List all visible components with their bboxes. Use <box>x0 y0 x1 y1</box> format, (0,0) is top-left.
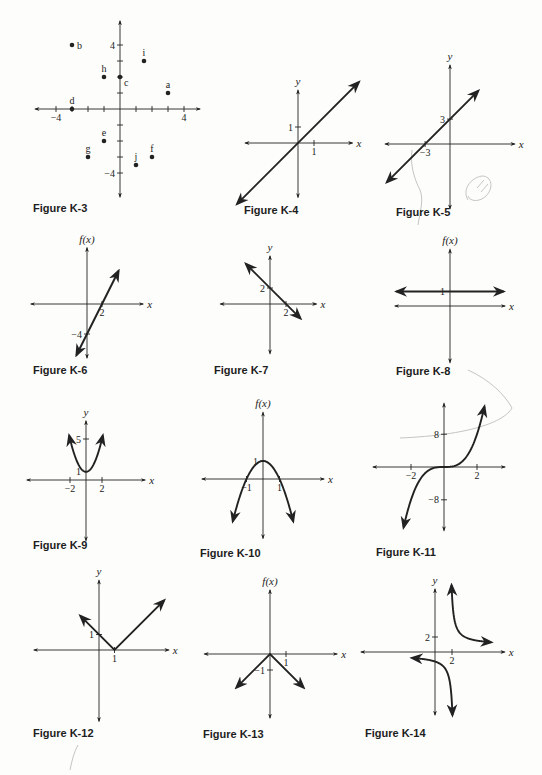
tick-label: 1 <box>112 653 117 664</box>
data-point-j <box>134 163 139 168</box>
tick-label: 1 <box>288 122 293 133</box>
tick-label: −2 <box>406 470 417 481</box>
tick-label: −2 <box>65 483 76 494</box>
tick-label: 4 <box>110 40 115 51</box>
data-point-d <box>70 107 75 112</box>
y-axis-label: f(x) <box>442 234 458 247</box>
figure-k-10: −111xf(x) <box>202 397 333 538</box>
x-axis-label: x <box>508 300 514 312</box>
axes <box>220 256 316 354</box>
figure-caption: Figure K-12 <box>33 727 94 739</box>
figure-caption: Figure K-4 <box>244 204 298 216</box>
point-label: d <box>70 95 75 106</box>
tick-label: −4 <box>71 329 82 340</box>
figure-caption: Figure K-11 <box>376 546 436 558</box>
figure-caption: Figure K-10 <box>200 547 261 559</box>
axes <box>35 21 200 197</box>
data-point-c <box>118 75 123 80</box>
tick-label: 1 <box>284 657 289 668</box>
figure-k-8: 1xf(x) <box>395 234 514 362</box>
axes <box>361 589 505 715</box>
axes <box>31 248 144 358</box>
plotted-curve <box>80 600 164 650</box>
point-label: i <box>143 47 146 58</box>
y-axis-label: f(x) <box>79 233 95 246</box>
tick-label: 2 <box>425 632 430 643</box>
figure-caption: Figure K-7 <box>214 364 268 376</box>
point-label: b <box>77 40 82 51</box>
figure-k-14: 22xy <box>361 574 514 715</box>
tick-label: −4 <box>104 168 115 179</box>
tick-label: 2 <box>450 655 455 666</box>
figure-k-4: 11xy <box>237 75 361 204</box>
figures-canvas: −444−4abcdefghij11xy−33xy2−4xf(x)22xy1xf… <box>0 0 542 775</box>
tick-label: −4 <box>51 112 62 123</box>
y-axis-label: f(x) <box>255 397 271 410</box>
figure-caption: Figure K-6 <box>33 364 87 376</box>
tick-label: −1 <box>254 665 265 676</box>
figure-caption: Figure K-5 <box>396 206 450 218</box>
x-axis-label: x <box>319 298 325 310</box>
y-axis-label: y <box>83 406 89 418</box>
figure-caption: Figure K-13 <box>203 728 264 740</box>
axes <box>395 249 505 362</box>
pencil-arc-k8-k11 <box>400 370 512 438</box>
x-axis-label: x <box>508 646 514 658</box>
plotted-curve <box>246 264 300 318</box>
x-axis-label: x <box>327 473 333 485</box>
figure-k-6: 2−4xf(x) <box>31 233 153 358</box>
tick-label: 2 <box>260 283 265 294</box>
data-point-e <box>102 139 107 144</box>
y-axis-label: y <box>267 241 273 253</box>
point-label: c <box>124 77 129 88</box>
point-label: f <box>150 143 154 154</box>
data-point-g <box>86 155 91 160</box>
axes <box>34 580 169 721</box>
point-label: g <box>86 143 91 154</box>
figure-k-7: 22xy <box>220 241 325 354</box>
tick-label: −8 <box>428 494 439 505</box>
y-axis-label: y <box>432 574 438 586</box>
axes <box>202 412 324 538</box>
plotted-curve <box>412 658 452 715</box>
tick-label: 1 <box>312 146 317 157</box>
data-point-a <box>166 91 171 96</box>
x-axis-label: x <box>172 644 178 656</box>
point-label: j <box>134 151 138 162</box>
textbook-page: −444−4abcdefghij11xy−33xy2−4xf(x)22xy1xf… <box>0 0 542 775</box>
y-axis-label: y <box>295 75 301 87</box>
data-point-f <box>150 155 155 160</box>
point-label: a <box>166 79 171 90</box>
figure-k-11: −228−8 <box>373 403 505 530</box>
figure-k-3: −444−4abcdefghij <box>35 21 200 197</box>
tick-label: 4 <box>182 112 187 123</box>
data-point-i <box>142 59 147 64</box>
data-point-b <box>70 43 75 48</box>
tick-label: 8 <box>434 429 439 440</box>
y-axis-label: f(x) <box>262 575 278 588</box>
plotted-curve <box>452 585 492 642</box>
pencil-stroke-bottom <box>70 745 78 770</box>
x-axis-label: x <box>518 138 524 150</box>
plotted-curve <box>77 271 119 355</box>
figure-k-5: −33xy <box>385 50 523 209</box>
plotted-curve <box>387 91 478 182</box>
axes <box>27 421 145 541</box>
y-axis-label: y <box>447 50 453 62</box>
x-axis-label: x <box>146 298 152 310</box>
tick-label: 2 <box>475 470 480 481</box>
figure-k-12: 11xy <box>34 565 178 721</box>
x-axis-label: x <box>340 648 346 660</box>
tick-label: 2 <box>284 307 289 318</box>
figure-caption: Figure K-3 <box>33 202 87 214</box>
axes <box>385 65 514 209</box>
figure-k-9: −2251xy <box>27 406 154 541</box>
axes <box>245 90 352 197</box>
figure-caption: Figure K-9 <box>33 539 87 551</box>
tick-label: 5 <box>76 434 81 445</box>
tick-label: 3 <box>440 114 445 125</box>
figure-caption: Figure K-14 <box>365 727 426 739</box>
y-axis-label: y <box>96 565 102 577</box>
tick-label: 1 <box>89 629 94 640</box>
x-axis-label: x <box>355 137 361 149</box>
